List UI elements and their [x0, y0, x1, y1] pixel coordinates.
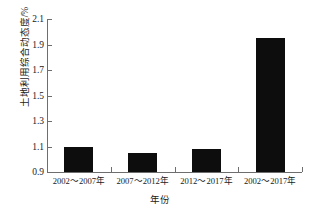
y-axis-tick-label: 1.7 [18, 65, 44, 75]
bar-chart: 土地利用综合动态度/% 0.91.11.31.51.71.92.1 2002～2… [0, 0, 320, 217]
y-axis-tick-label: 2.1 [18, 14, 44, 24]
x-axis-tick-label: 2012～2017年 [173, 175, 239, 187]
bar [64, 147, 93, 173]
y-axis-tick-mark [48, 45, 52, 46]
x-axis-line [47, 172, 302, 173]
x-axis-tick-label: 2002～2007年 [46, 175, 112, 187]
x-axis-tick-mark [302, 167, 303, 172]
plot-area [47, 19, 302, 172]
x-axis-tick-label: 2007～2012年 [110, 175, 176, 187]
x-axis-tick-labels: 2002～2007年2007～2012年2012～2017年2002～2017年 [40, 175, 315, 189]
x-axis-tick-mark [111, 167, 112, 172]
bar [128, 153, 157, 172]
bar [256, 38, 285, 172]
x-axis-tick-label: 2002～2017年 [237, 175, 303, 187]
y-axis-tick-mark [48, 19, 52, 20]
y-axis-tick-mark [48, 121, 52, 122]
y-axis-tick-label: 1.3 [18, 116, 44, 126]
y-axis-tick-label: 1.9 [18, 40, 44, 50]
bar [192, 149, 221, 172]
y-axis-tick-mark [48, 147, 52, 148]
y-axis-tick-mark [48, 172, 52, 173]
y-axis-tick-label: 1.5 [18, 91, 44, 101]
y-axis-tick-mark [48, 70, 52, 71]
y-axis-tick-label: 1.1 [18, 142, 44, 152]
x-axis-tick-mark [175, 167, 176, 172]
x-axis-tick-mark [238, 167, 239, 172]
x-axis-title: 年份 [0, 194, 320, 207]
y-axis-tick-mark [48, 96, 52, 97]
